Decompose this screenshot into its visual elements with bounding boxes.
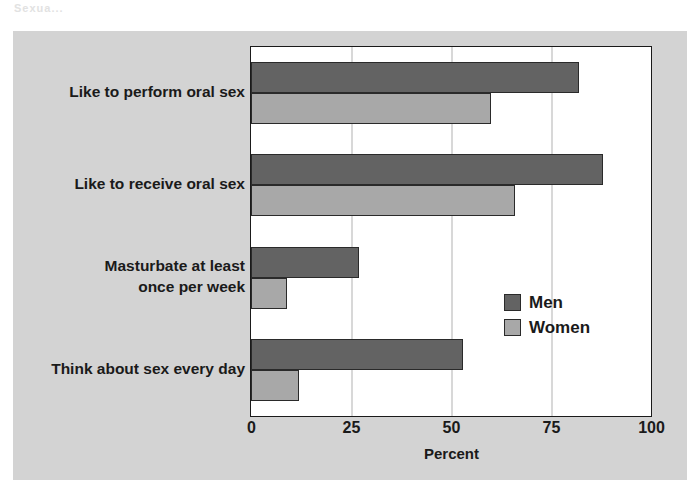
bar-men-0 — [251, 62, 579, 93]
category-label-line: Like to perform oral sex — [13, 82, 245, 102]
category-label-line: Think about sex every day — [13, 359, 245, 379]
bar-women-1 — [251, 185, 515, 216]
legend-item-women[interactable]: Women — [504, 315, 636, 340]
category-label-line: Masturbate at least — [13, 256, 245, 276]
gridline-75 — [551, 47, 553, 416]
category-label-0: Like to perform oral sex — [13, 82, 245, 102]
plot-area: MenWomen — [250, 46, 652, 417]
bar-women-0 — [251, 93, 491, 124]
bar-men-3 — [251, 339, 463, 370]
bar-women-2 — [251, 278, 287, 309]
bar-men-1 — [251, 154, 603, 185]
chart-figure-panel: Like to perform oral sexLike to receive … — [13, 31, 687, 480]
x-axis-title: Percent — [250, 445, 653, 462]
scan-artifact-text: Sexua... — [14, 2, 134, 14]
x-tick-0: 0 — [247, 419, 256, 437]
category-label-3: Think about sex every day — [13, 359, 245, 379]
category-axis-labels: Like to perform oral sexLike to receive … — [13, 46, 249, 415]
legend-swatch-women — [504, 319, 521, 336]
x-tick-75: 75 — [543, 419, 561, 437]
legend-item-men[interactable]: Men — [504, 290, 636, 315]
x-tick-100: 100 — [638, 419, 665, 437]
chart-legend: MenWomen — [504, 290, 636, 340]
category-label-line: once per week — [13, 277, 245, 297]
category-label-line: Like to receive oral sex — [13, 174, 245, 194]
bar-women-3 — [251, 370, 299, 401]
legend-label-men: Men — [529, 293, 563, 313]
legend-swatch-men — [504, 294, 521, 311]
x-axis-tick-labels: 0255075100 — [250, 419, 653, 441]
legend-label-women: Women — [529, 318, 590, 338]
x-tick-25: 25 — [343, 419, 361, 437]
bar-men-2 — [251, 247, 359, 278]
category-label-1: Like to receive oral sex — [13, 174, 245, 194]
x-tick-50: 50 — [443, 419, 461, 437]
category-label-2: Masturbate at leastonce per week — [13, 256, 245, 297]
